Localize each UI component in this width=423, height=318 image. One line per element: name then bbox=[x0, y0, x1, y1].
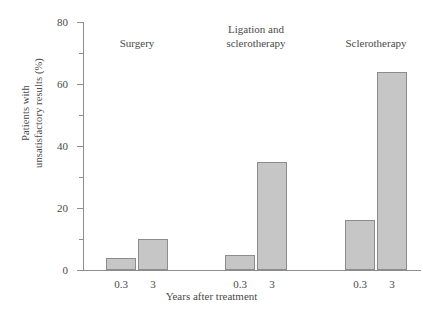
y-axis-title-line-1: Patients with bbox=[19, 13, 32, 213]
y-tick-major-60: 60 bbox=[77, 84, 83, 85]
y-tick-minor-10 bbox=[79, 239, 83, 240]
y-tick-label-60: 60 bbox=[57, 78, 68, 90]
bar-group-1-0-3 bbox=[225, 255, 255, 271]
y-tick-minor-50 bbox=[79, 115, 83, 116]
y-tick-label-80: 80 bbox=[57, 16, 68, 28]
group-label-line-1: sclerotherapy bbox=[226, 37, 285, 51]
bar-group-0-3 bbox=[138, 239, 168, 270]
y-axis-line bbox=[83, 22, 84, 270]
plot-area: 0204060800.330.330.33 bbox=[83, 22, 421, 270]
y-tick-label-20: 20 bbox=[57, 202, 68, 214]
x-tick-label-group-0-1: 3 bbox=[150, 278, 156, 290]
group-label-line-0: Sclerotherapy bbox=[345, 37, 406, 51]
group-label-line-0: Surgery bbox=[120, 37, 155, 51]
group-label-surgery: Surgery bbox=[120, 37, 155, 51]
y-axis-title: Patients with unsatisfactory results (%) bbox=[19, 13, 53, 213]
y-tick-major-20: 20 bbox=[77, 208, 83, 209]
bar-group-2-0-3 bbox=[345, 220, 375, 270]
x-axis-line bbox=[83, 270, 421, 271]
y-tick-major-0: 0 bbox=[77, 270, 83, 271]
y-tick-major-80: 80 bbox=[77, 22, 83, 23]
x-tick-label-group-1-1: 3 bbox=[269, 278, 275, 290]
y-tick-label-40: 40 bbox=[57, 140, 68, 152]
y-tick-major-40: 40 bbox=[77, 146, 83, 147]
bar-group-2-3 bbox=[377, 72, 407, 270]
x-axis-title: Years after treatment bbox=[0, 290, 423, 302]
x-tick-label-group-2-1: 3 bbox=[389, 278, 395, 290]
bar-group-1-3 bbox=[257, 162, 287, 271]
bar-group-0-0-3 bbox=[106, 258, 136, 270]
group-label-ligation-and-sclerotherapy: Ligation andsclerotherapy bbox=[226, 23, 285, 50]
y-tick-minor-30 bbox=[79, 177, 83, 178]
y-tick-minor-70 bbox=[79, 53, 83, 54]
group-label-sclerotherapy: Sclerotherapy bbox=[345, 37, 406, 51]
bar-chart-figure: Patients with unsatisfactory results (%)… bbox=[0, 0, 423, 318]
group-label-line-0: Ligation and bbox=[226, 23, 285, 37]
y-axis-title-line-2: unsatisfactory results (%) bbox=[32, 13, 45, 213]
x-tick-label-group-1-0: 0.3 bbox=[233, 278, 247, 290]
x-tick-label-group-0-0: 0.3 bbox=[114, 278, 128, 290]
y-tick-label-0: 0 bbox=[63, 264, 69, 276]
x-tick-label-group-2-0: 0.3 bbox=[353, 278, 367, 290]
